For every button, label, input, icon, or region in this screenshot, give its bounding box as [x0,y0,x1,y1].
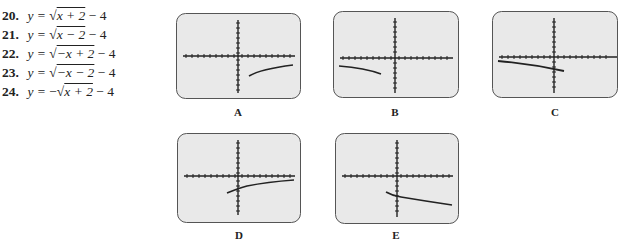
equation-22: 22. y = √−x + 2 − 4 [2,44,116,63]
sqrt-symbol: √ [49,46,56,61]
radicand: x + 2 [57,8,86,23]
graph-label-e: E [386,229,406,241]
graph-screen-b [333,11,459,98]
equation-number: 20. [2,6,24,25]
equation-lhs: y = [27,65,49,80]
equation-20: 20. y = √x + 2 − 4 [2,6,116,25]
equation-list: 20. y = √x + 2 − 4 21. y = √x − 2 − 4 22… [2,6,116,101]
equation-number: 21. [2,25,24,44]
sqrt-symbol: √ [49,27,56,42]
graph-label-a: A [228,106,248,118]
radicand: −x − 2 [57,65,95,80]
equation-24: 24. y = −√x + 2 − 4 [2,82,116,101]
radicand: x − 2 [57,27,86,42]
graph-label-d: D [229,229,249,241]
equation-number: 24. [2,82,24,101]
equation-tail: − 4 [94,46,115,61]
equation-tail: − 4 [85,8,106,23]
equation-lhs: y = [27,46,49,61]
equation-number: 23. [2,63,24,82]
negation-sign: − [49,84,57,99]
radicand: −x + 2 [57,46,95,61]
graph-label-b: B [385,106,405,118]
equation-lhs: y = [27,27,49,42]
equation-23: 23. y = √−x − 2 − 4 [2,63,116,82]
graph-screen-e [335,133,459,224]
sqrt-symbol: √ [49,65,56,80]
equation-lhs: y = [27,84,49,99]
graph-label-c: C [545,106,565,118]
equation-tail: − 4 [94,65,115,80]
equation-lhs: y = [27,8,49,23]
sqrt-symbol: √ [49,8,56,23]
radicand: x + 2 [64,84,93,99]
equation-tail: − 4 [93,84,114,99]
equation-21: 21. y = √x − 2 − 4 [2,25,116,44]
graph-screen-d [177,133,301,223]
graph-screen-a [176,13,301,99]
equation-number: 22. [2,44,24,63]
graph-screen-c [492,11,618,98]
equation-tail: − 4 [85,27,106,42]
